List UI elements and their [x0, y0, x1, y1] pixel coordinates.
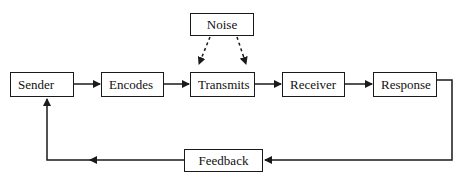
line-feedback-to-sender	[47, 99, 92, 160]
node-receiver: Receiver	[282, 72, 345, 97]
node-label: Response	[381, 77, 431, 93]
node-response: Response	[373, 72, 437, 97]
node-label: Receiver	[290, 77, 336, 93]
node-noise: Noise	[190, 13, 254, 36]
node-sender: Sender	[10, 72, 74, 97]
node-label: Noise	[207, 17, 237, 33]
noise-arrow-right	[237, 37, 246, 64]
node-label: Feedback	[199, 153, 249, 169]
node-label: Sender	[18, 77, 54, 93]
noise-arrow-left	[199, 37, 210, 64]
node-transmits: Transmits	[190, 72, 255, 97]
node-encodes: Encodes	[101, 72, 164, 97]
node-feedback: Feedback	[184, 149, 263, 172]
node-label: Transmits	[198, 77, 250, 93]
node-label: Encodes	[109, 77, 153, 93]
